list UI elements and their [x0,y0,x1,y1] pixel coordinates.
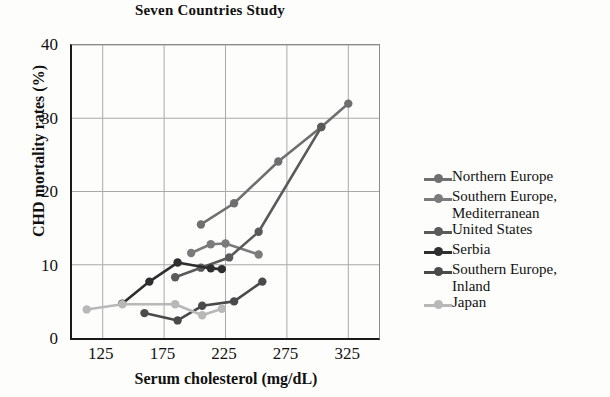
y-tick-40: 40 [41,36,58,53]
x-tick-125: 125 [71,345,131,362]
x-tick-175: 175 [132,345,192,362]
data-point [171,300,179,308]
legend-label: Serbia [452,241,490,258]
series-2 [171,123,326,282]
data-point [187,249,195,257]
y-axis-tick-labels: 010203040 [0,36,64,348]
data-point [254,228,262,236]
data-point [198,311,206,319]
legend-marker-icon [424,224,452,241]
data-point [198,302,206,310]
data-point [118,300,126,308]
legend-label: Northern Europe [452,168,553,185]
data-point [145,277,153,285]
y-tick-20: 20 [41,183,58,200]
legend-label: United States [452,221,532,238]
legend-marker-icon [424,264,452,281]
data-point [274,157,282,165]
series-1 [187,239,263,258]
data-point [207,240,215,248]
data-point [171,273,179,281]
data-point [197,220,205,228]
legend-label: Southern Europe, Inland [452,261,557,294]
data-point [173,316,181,324]
legend-item-1[interactable]: Southern Europe, Mediterranean [424,188,608,221]
data-point [230,199,238,207]
chart-figure: Seven Countries Study CHD mortality rate… [0,0,610,397]
legend-item-5[interactable]: Japan [424,294,608,314]
data-point [218,265,226,273]
series-0 [197,99,353,228]
data-point [221,239,229,247]
x-tick-225: 225 [194,345,254,362]
chart-title: Seven Countries Study [0,2,420,19]
data-point [317,123,325,131]
legend-marker-icon [424,297,452,314]
data-point [344,99,352,107]
legend: Northern EuropeSouthern Europe, Mediterr… [424,168,608,314]
legend-item-3[interactable]: Serbia [424,241,608,261]
series-plot [72,45,379,338]
data-point [254,250,262,258]
data-point [207,264,215,272]
legend-marker-icon [424,244,452,261]
data-point [83,305,91,313]
legend-marker-icon [424,191,452,208]
y-tick-10: 10 [41,257,58,274]
plot-area [70,44,380,340]
x-axis-tick-labels: 125175225275325 [70,345,382,367]
legend-marker-icon [424,171,452,188]
data-point [218,305,226,313]
x-axis-label: Serum cholesterol (mg/dL) [56,370,396,388]
data-point [258,277,266,285]
x-tick-325: 325 [317,345,377,362]
legend-label: Japan [452,294,486,311]
y-tick-30: 30 [41,110,58,127]
y-tick-0: 0 [50,330,59,347]
series-3 [118,258,226,307]
x-tick-275: 275 [256,345,316,362]
legend-item-4[interactable]: Southern Europe, Inland [424,261,608,294]
legend-item-0[interactable]: Northern Europe [424,168,608,188]
data-point [230,297,238,305]
data-point [173,258,181,266]
data-point [225,253,233,261]
series-line [175,127,321,277]
legend-label: Southern Europe, Mediterranean [452,188,557,221]
legend-item-2[interactable]: United States [424,221,608,241]
data-point [140,309,148,317]
